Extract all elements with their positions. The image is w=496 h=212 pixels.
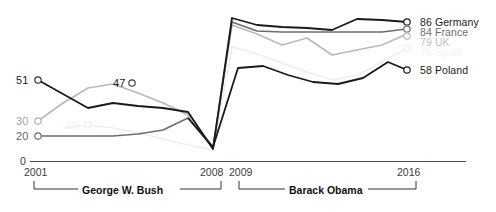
- series-label-poland: 58 Poland: [420, 65, 468, 76]
- marker-end-poland: [404, 67, 410, 73]
- left-value-label-spain: 20: [66, 120, 78, 131]
- left-value-label-france: 20: [16, 131, 28, 142]
- marker-end-france: [404, 26, 410, 32]
- marker-end-germany: [404, 19, 410, 25]
- marker-end-uk: [404, 33, 410, 39]
- marker-start-germany: [35, 77, 41, 83]
- marker-end-spain: [404, 45, 410, 51]
- annotation-label-47: 47: [113, 78, 125, 89]
- x-axis-label-2008: 2008: [200, 166, 223, 178]
- x-axis-label-2016: 2016: [397, 166, 420, 178]
- series-line-spain: [63, 47, 407, 150]
- left-value-label-uk: 30: [16, 116, 28, 127]
- line-chart: 51 30 20 20 47 86 Germany 84 France 79 U…: [0, 0, 496, 212]
- marker-start-spain: [85, 122, 91, 128]
- marker-start-france: [35, 133, 41, 139]
- series-line-germany: [38, 18, 407, 149]
- x-axis-label-2009: 2009: [229, 166, 252, 178]
- series-label-spain: 75 Spain: [420, 47, 462, 58]
- marker-annotation-47: [129, 80, 135, 86]
- era-label-bush: George W. Bush: [82, 184, 163, 196]
- marker-start-uk: [35, 118, 41, 124]
- era-label-obama: Barack Obama: [289, 184, 363, 196]
- x-axis-label-2001: 2001: [24, 166, 47, 178]
- left-value-label-germany: 51: [16, 75, 28, 86]
